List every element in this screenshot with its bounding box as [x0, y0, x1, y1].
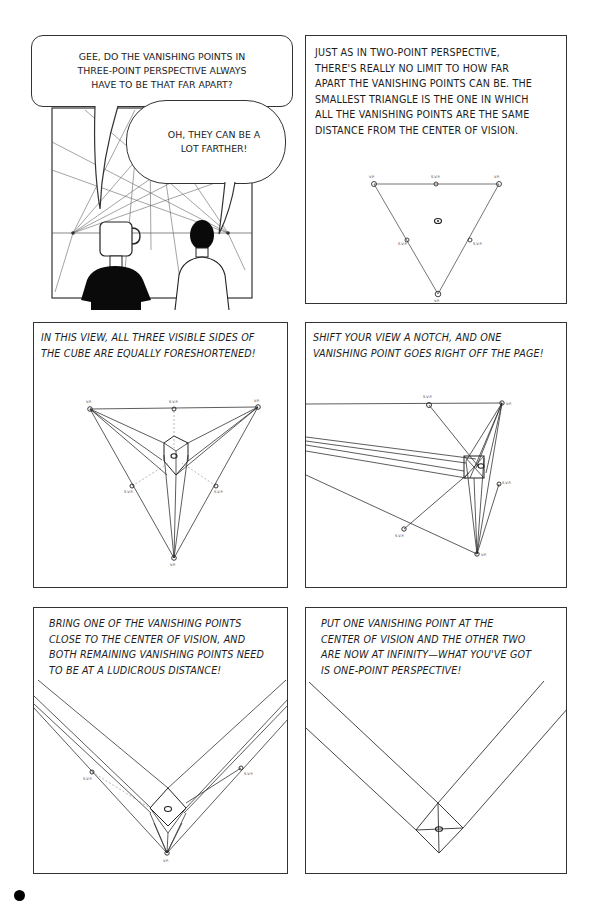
page-marker-dot [14, 890, 25, 901]
cube-three-point-diagram: V.P. V.P. S.V.P. S.V.P. S.V.P. V.P. [34, 323, 288, 588]
svg-text:S.V.P.: S.V.P. [502, 481, 511, 485]
panel-6-one-point-perspective: PUT ONE VANISHING POINT AT THE CENTER OF… [305, 607, 567, 874]
equilateral-vp-triangle-diagram: V.P. V.P. S.V.P. S.V.P. S.V.P. V.P. [306, 36, 567, 304]
svg-text:S.V.P.: S.V.P. [124, 490, 133, 494]
svg-text:S.V.P.: S.V.P. [423, 395, 432, 399]
svg-text:S.V.P.: S.V.P. [395, 534, 404, 538]
svg-text:V.P.: V.P. [494, 175, 500, 179]
speech-bubble-man: OH, THEY CAN BE A LOT FARTHER! [126, 100, 286, 184]
panel-4-vp-off-page: SHIFT YOUR VIEW A NOTCH, AND ONE VANISHI… [305, 322, 567, 588]
svg-text:V.P.: V.P. [163, 859, 169, 863]
svg-text:V.P.: V.P. [254, 399, 260, 403]
panel-3-equal-foreshortening: IN THIS VIEW, ALL THREE VISIBLE SIDES OF… [33, 322, 288, 588]
svg-text:V.P.: V.P. [170, 563, 176, 567]
panel-5-ludicrous-distance: BRING ONE OF THE VANISHING POINTS CLOSE … [33, 607, 288, 874]
svg-text:V.P.: V.P. [369, 175, 375, 179]
svg-text:S.V.P.: S.V.P. [398, 242, 407, 246]
svg-text:V.P.: V.P. [481, 553, 487, 557]
svg-text:V.P.: V.P. [86, 400, 92, 404]
speech-bubble-mug-head: GEE, DO THE VANISHING POINTS IN THREE-PO… [31, 35, 293, 107]
svg-text:V.P.: V.P. [434, 299, 440, 303]
svg-text:S.V.P.: S.V.P. [244, 772, 253, 776]
svg-text:S.V.P.: S.V.P. [431, 175, 440, 179]
one-point-perspective-diagram [306, 608, 567, 874]
cube-near-center-diagram: S.V.P. S.V.P. V.P. [34, 608, 288, 874]
svg-text:S.V.P.: S.V.P. [473, 242, 482, 246]
cube-vp-off-page-diagram: V.P. S.V.P. S.V.P. S.V.P. V.P. [306, 323, 567, 588]
svg-text:S.V.P.: S.V.P. [169, 400, 178, 404]
center-of-vision-eye-icon [165, 807, 172, 812]
svg-text:S.V.P.: S.V.P. [83, 777, 92, 781]
svg-text:V.P.: V.P. [506, 402, 512, 406]
panel-1-dialogue: GEE, DO THE VANISHING POINTS IN THREE-PO… [25, 30, 290, 310]
svg-text:S.V.P.: S.V.P. [214, 490, 223, 494]
panel-2-smallest-triangle: JUST AS IN TWO-POINT PERSPECTIVE, THERE'… [305, 35, 567, 304]
